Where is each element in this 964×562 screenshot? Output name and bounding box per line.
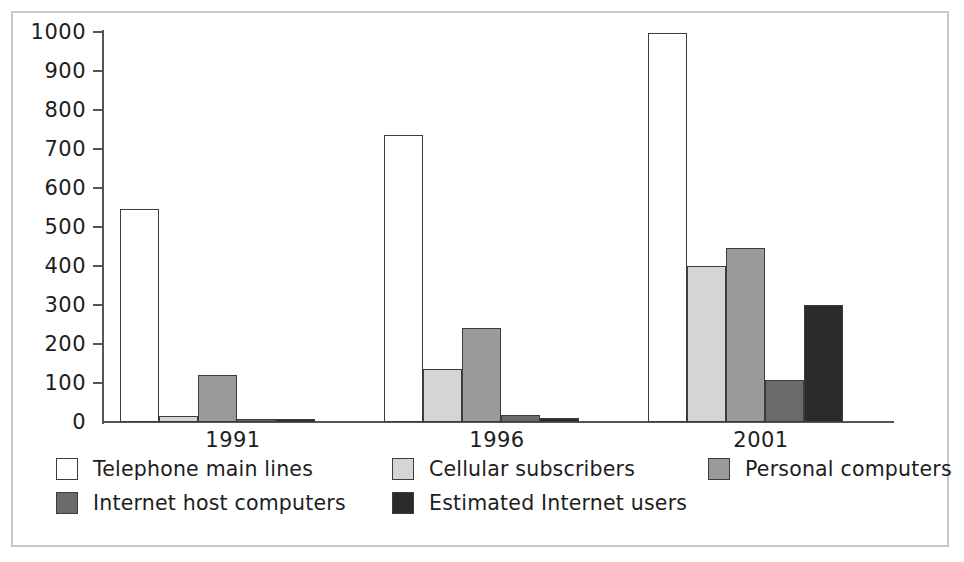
legend-label-telephone-main-lines: Telephone main lines [93, 457, 313, 481]
bar-1996-internet-host-computers[interactable] [501, 415, 540, 422]
bar-1991-cellular-subscribers[interactable] [159, 416, 198, 422]
x-axis-label-1996: 1996 [397, 428, 597, 452]
x-axis-label-1991: 1991 [133, 428, 333, 452]
y-tick-label-200: 200 [12, 334, 86, 355]
y-tick-label-700: 700 [12, 139, 86, 160]
bar-1991-internet-host-computers[interactable] [237, 419, 276, 422]
legend-swatch-icon-internet-host-computers [56, 492, 78, 514]
y-tick-label-600: 600 [12, 178, 86, 199]
legend-row-1: Telephone main lines Cellular subscriber… [56, 452, 926, 486]
bar-group-2001 [648, 32, 843, 422]
y-tick-label-0: 0 [12, 412, 86, 433]
chart-page: 1000 900 800 700 600 500 400 300 200 100… [0, 0, 964, 562]
legend-item-estimated-internet-users[interactable]: Estimated Internet users [392, 486, 687, 520]
legend-label-personal-computers: Personal computers [745, 457, 952, 481]
legend-swatch-icon-personal-computers [708, 458, 730, 480]
y-tick-label-300: 300 [12, 295, 86, 316]
legend-item-personal-computers[interactable]: Personal computers [708, 452, 952, 486]
legend-row-2: Internet host computers Estimated Intern… [56, 486, 926, 520]
plot-area [102, 32, 894, 422]
bar-2001-personal-computers[interactable] [726, 248, 765, 422]
legend-item-cellular-subscribers[interactable]: Cellular subscribers [392, 452, 635, 486]
bar-1996-cellular-subscribers[interactable] [423, 369, 462, 422]
bar-1991-telephone-main-lines[interactable] [120, 209, 159, 422]
bar-1996-personal-computers[interactable] [462, 328, 501, 422]
bar-1996-estimated-internet-users[interactable] [540, 418, 579, 422]
bar-group-1991 [120, 32, 315, 422]
legend-item-telephone-main-lines[interactable]: Telephone main lines [56, 452, 313, 486]
y-tick-label-100: 100 [12, 373, 86, 394]
bar-1996-telephone-main-lines[interactable] [384, 135, 423, 422]
legend-swatch-icon-estimated-internet-users [392, 492, 414, 514]
bar-1991-estimated-internet-users[interactable] [276, 419, 315, 422]
chart-legend: Telephone main lines Cellular subscriber… [56, 452, 926, 520]
legend-label-cellular-subscribers: Cellular subscribers [429, 457, 635, 481]
y-tick-label-1000: 1000 [12, 22, 86, 43]
legend-label-estimated-internet-users: Estimated Internet users [429, 491, 687, 515]
y-tick-label-900: 900 [12, 61, 86, 82]
y-tick-label-400: 400 [12, 256, 86, 277]
bar-group-1996 [384, 32, 579, 422]
bar-2001-internet-host-computers[interactable] [765, 380, 804, 422]
legend-item-internet-host-computers[interactable]: Internet host computers [56, 486, 346, 520]
bar-2001-cellular-subscribers[interactable] [687, 266, 726, 422]
bar-1991-personal-computers[interactable] [198, 375, 237, 422]
bar-2001-telephone-main-lines[interactable] [648, 33, 687, 422]
legend-swatch-icon-telephone-main-lines [56, 458, 78, 480]
y-tick-label-800: 800 [12, 100, 86, 121]
legend-swatch-icon-cellular-subscribers [392, 458, 414, 480]
x-axis-label-2001: 2001 [661, 428, 861, 452]
legend-label-internet-host-computers: Internet host computers [93, 491, 346, 515]
y-tick-label-500: 500 [12, 217, 86, 238]
bar-2001-estimated-internet-users[interactable] [804, 305, 843, 422]
